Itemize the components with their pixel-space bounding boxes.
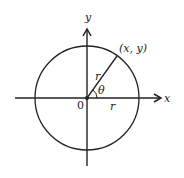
y-axis-label: y	[84, 11, 92, 24]
angle-arc	[93, 90, 97, 98]
angle-label: θ	[98, 84, 105, 97]
x-axis-label: x	[164, 92, 171, 105]
radius-horizontal-label: r	[110, 100, 116, 113]
radius-diagonal-label: r	[95, 70, 101, 83]
origin-label: 0	[77, 99, 84, 112]
origin-dot	[85, 96, 89, 100]
polar-diagram: y x 0 (x, y) r θ r	[0, 0, 184, 178]
point-label: (x, y)	[119, 42, 147, 55]
